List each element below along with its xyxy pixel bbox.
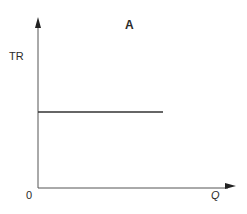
y-axis-label: TR	[9, 51, 24, 62]
y-axis-arrow-icon	[35, 17, 41, 28]
x-axis-arrow-icon	[225, 183, 236, 189]
chart-plot	[0, 0, 247, 214]
x-axis-label: Q	[211, 190, 220, 201]
origin-label: 0	[26, 190, 32, 201]
chart-title: A	[125, 19, 134, 31]
